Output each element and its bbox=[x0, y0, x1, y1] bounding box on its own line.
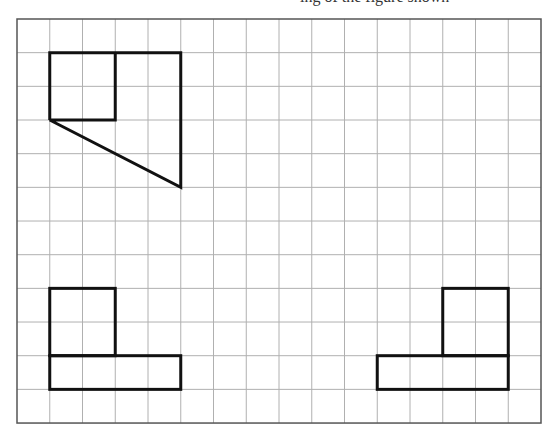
orthographic-grid-diagram bbox=[0, 0, 559, 436]
grid-lines bbox=[17, 19, 541, 423]
